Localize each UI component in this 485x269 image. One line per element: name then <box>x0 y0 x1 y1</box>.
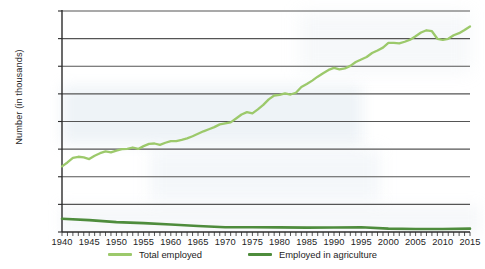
series-line-employed-in-agriculture <box>62 219 470 229</box>
legend-label-total-employed: Total employed <box>139 250 202 259</box>
legend-item-total-employed: Total employed <box>108 250 202 259</box>
legend-item-employed-in-agriculture: Employed in agriculture <box>248 250 377 259</box>
chart-legend: Total employed Employed in agriculture <box>0 250 485 259</box>
chart-container: Number (in thousands) 020,00040,00060,00… <box>0 0 485 269</box>
legend-label-employed-in-agriculture: Employed in agriculture <box>279 250 377 259</box>
series-line-total-employed <box>62 26 470 166</box>
legend-swatch-employed-in-agriculture <box>248 253 272 256</box>
plot-area <box>0 0 485 269</box>
legend-swatch-total-employed <box>108 253 132 256</box>
